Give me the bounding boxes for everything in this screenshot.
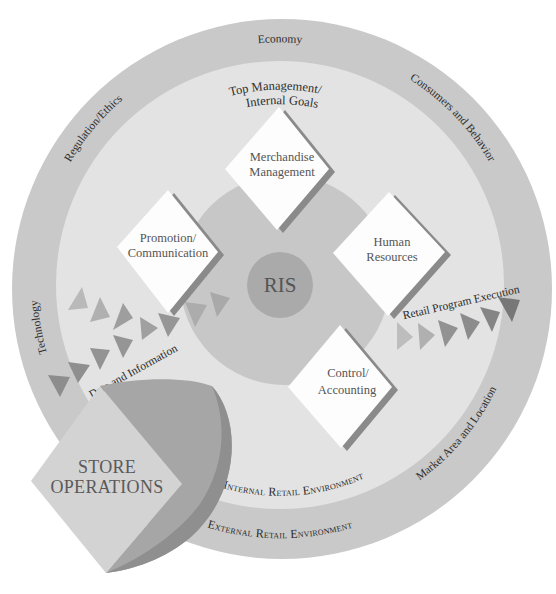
diamond-label-line1: Control/ bbox=[327, 366, 369, 380]
ris-label: RIS bbox=[264, 273, 297, 297]
diamond-label-line2: Management bbox=[249, 165, 315, 179]
diamond-label-line2: Resources bbox=[366, 250, 418, 264]
diamond-label-line2: Accounting bbox=[318, 383, 377, 397]
diamond-label-line1: Merchandise bbox=[250, 150, 315, 164]
store-operations-label-line2: OPERATIONS bbox=[50, 477, 163, 497]
store-operations-label-line1: STORE bbox=[78, 457, 136, 477]
diamond-label-line1: Human bbox=[374, 235, 412, 249]
diamond-label-line2: Communication bbox=[128, 246, 209, 260]
diamond-label-line1: Promotion/ bbox=[140, 231, 197, 245]
ring-label-economy: Economy bbox=[257, 32, 303, 46]
retail-information-system-diagram: Economy Regulation/Ethics Consumers and … bbox=[0, 0, 556, 594]
